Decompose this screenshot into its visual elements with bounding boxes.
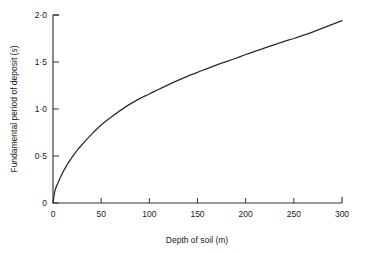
x-axis-title: Depth of soil (m): [166, 235, 229, 245]
x-tick-label: 250: [287, 209, 301, 219]
y-tick-label: 2·0: [35, 10, 48, 20]
y-axis-title-main: Fundamental period of deposit (: [9, 52, 19, 172]
y-axis-ticks: [53, 15, 59, 203]
x-tick-label: 200: [239, 209, 253, 219]
y-axis-title: Fundamental period of deposit (s): [9, 45, 19, 172]
x-axis-ticks: [101, 198, 294, 203]
x-tick-label: 150: [190, 209, 204, 219]
data-curve-fundamental-period: [53, 21, 342, 203]
x-tick-label: 100: [142, 209, 156, 219]
y-tick-label: 1·0: [35, 104, 48, 114]
y-tick-label: 0·5: [35, 151, 48, 161]
x-tick-label: 300: [335, 209, 349, 219]
y-axis-tick-labels: 00·51·01·52·0: [35, 10, 48, 208]
y-tick-label: 0: [42, 198, 47, 208]
x-axis-tick-labels: 050100150200250300: [51, 209, 350, 219]
y-axis-title-tail: ): [9, 45, 19, 48]
axes-group: [53, 15, 342, 203]
x-tick-label: 0: [51, 209, 56, 219]
x-tick-label: 50: [96, 209, 106, 219]
y-tick-label: 1·5: [35, 57, 48, 67]
chart-canvas: 00·51·01·52·0 050100150200250300 Depth o…: [0, 0, 367, 253]
